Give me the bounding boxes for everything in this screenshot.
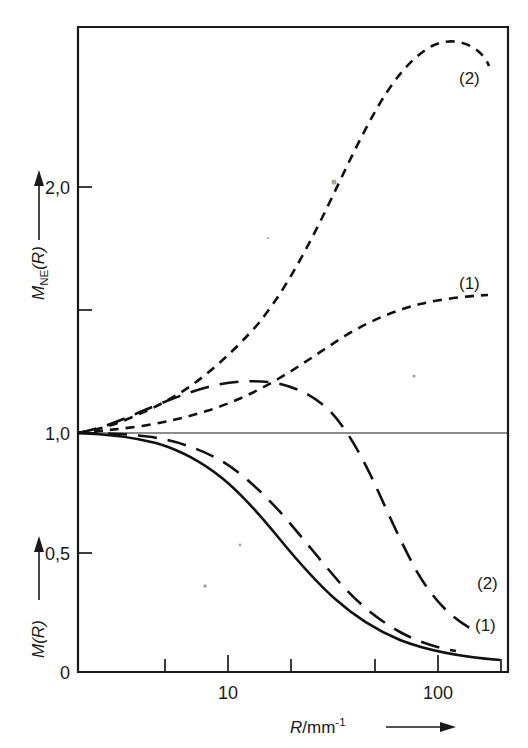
figure-container: (2) (1) (2) (1) 2,0 1,0 0,5 0 10 100 MNE… bbox=[0, 0, 528, 748]
y-tick-label-2-0: 2,0 bbox=[45, 178, 70, 198]
y-upper-arg: (R) bbox=[29, 246, 48, 270]
x-axis-exponent: -1 bbox=[335, 716, 345, 728]
curve-label-upper-1: (1) bbox=[459, 274, 480, 293]
chart-svg: (2) (1) (2) (1) 2,0 1,0 0,5 0 10 100 MNE… bbox=[0, 0, 528, 748]
y-axis-label-upper: MNE(R) bbox=[29, 246, 50, 300]
y-tick-label-0-5: 0,5 bbox=[45, 544, 70, 564]
x-tick-label-100: 100 bbox=[423, 683, 453, 703]
y-axis-lower-arrow-icon bbox=[34, 536, 44, 600]
curve-m-1 bbox=[78, 433, 456, 651]
curve-m-solid bbox=[78, 433, 500, 660]
y-axis-ticks bbox=[78, 187, 92, 553]
y-axis-label-lower: M(R) bbox=[29, 620, 48, 658]
y-upper-subscript: NE bbox=[38, 270, 50, 286]
y-lower-arg: (R) bbox=[29, 620, 48, 644]
x-axis-label-group: R/mm-1 bbox=[290, 716, 456, 737]
x-axis-arrow-icon bbox=[386, 722, 456, 732]
x-axis-symbol: R bbox=[290, 718, 302, 737]
y-axis-upper-arrow-icon bbox=[34, 170, 44, 240]
x-axis-ticks bbox=[165, 655, 501, 672]
curve-label-lower-1: (1) bbox=[475, 616, 496, 635]
y-lower-symbol: M bbox=[29, 643, 48, 658]
x-axis-unit: mm bbox=[307, 718, 335, 737]
curve-label-upper-2: (2) bbox=[459, 69, 480, 88]
y-tick-label-0: 0 bbox=[60, 663, 70, 683]
plot-frame bbox=[78, 27, 508, 672]
y-upper-symbol: M bbox=[29, 285, 48, 300]
x-axis-label: R/mm-1 bbox=[290, 716, 346, 737]
y-tick-label-1-0: 1,0 bbox=[45, 424, 70, 444]
curve-label-lower-2: (2) bbox=[477, 574, 498, 593]
x-tick-label-10: 10 bbox=[218, 683, 238, 703]
